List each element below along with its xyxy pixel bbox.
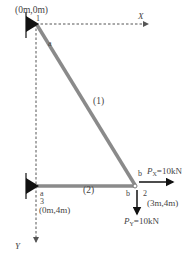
- node-2-coord-label: (3m,4m): [147, 198, 178, 208]
- pin-support-node-3: [26, 173, 39, 199]
- node-1-coord-label: (0m,0m): [15, 5, 48, 16]
- y-axis-label: Y: [15, 241, 21, 251]
- node-2-id-label: 2: [143, 189, 147, 198]
- py-label: PY=10kN: [123, 216, 159, 227]
- node-1-id-label: 1: [36, 14, 40, 23]
- member-1-label: (1): [93, 96, 104, 107]
- px-label: PX=10kN: [146, 166, 182, 177]
- truss-diagram: (0m,0m) 1 a X (1) b PX=10kN a (2) b 2 (3…: [0, 0, 196, 262]
- member-2-label: (2): [83, 185, 94, 196]
- member-1-end-b-label: b: [138, 169, 142, 178]
- member-2-end-b-label: b: [126, 189, 130, 198]
- x-axis-label: X: [137, 11, 144, 21]
- node-3-coord-label: (0m,4m): [39, 205, 70, 215]
- member-1-end-a-label: a: [48, 39, 52, 48]
- member-1: [37, 25, 135, 185]
- node-2-hinge: [133, 184, 137, 188]
